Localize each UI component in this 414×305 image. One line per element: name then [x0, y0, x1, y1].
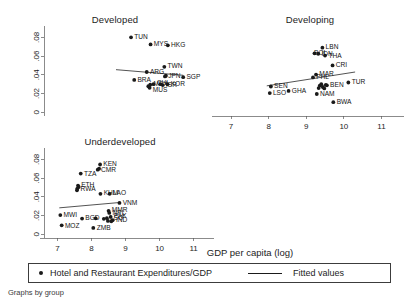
legend-line-icon	[248, 273, 282, 274]
svg-text:.06: .06	[32, 50, 41, 62]
svg-text:JPN: JPN	[168, 72, 181, 79]
svg-text:BEN: BEN	[330, 81, 344, 88]
x-axis-title: GDP per capita (log)	[160, 247, 340, 258]
svg-text:KOR: KOR	[171, 80, 186, 87]
svg-text:SEN: SEN	[274, 82, 288, 89]
svg-text:THA: THA	[328, 52, 342, 59]
chart-legend: Hotel and Restaurant Expenditures/GDP Fi…	[28, 263, 391, 283]
svg-text:CMR: CMR	[101, 166, 116, 173]
graphs-by-group-note: Graphs by group	[8, 288, 64, 297]
svg-text:8: 8	[89, 244, 94, 253]
svg-text:LSO: LSO	[273, 89, 286, 96]
svg-text:MWI: MWI	[64, 211, 78, 218]
scatter-plot-developed: 0.02.04.06.08TUNMYSHKGTWNARGJPNSGPBRAMEX…	[22, 14, 208, 126]
svg-text:TZA: TZA	[84, 170, 97, 177]
panel-developed: Developed 0.02.04.06.08TUNMYSHKGTWNARGJP…	[22, 14, 208, 126]
svg-text:MUS: MUS	[153, 86, 168, 93]
panel-underdeveloped: Underdeveloped 0.02.04.06.087891011KENCM…	[22, 136, 218, 262]
svg-text:0: 0	[32, 231, 41, 236]
svg-text:RWA: RWA	[81, 185, 97, 192]
svg-text:BOL: BOL	[314, 49, 328, 56]
svg-text:10: 10	[339, 122, 348, 131]
svg-text:0: 0	[32, 109, 41, 114]
svg-text:MOZ: MOZ	[65, 222, 80, 229]
figure-root: Developed 0.02.04.06.08TUNMYSHKGTWNARGJP…	[0, 0, 414, 305]
svg-text:9: 9	[304, 122, 309, 131]
svg-text:.02: .02	[32, 87, 41, 99]
svg-text:CRI: CRI	[336, 61, 348, 68]
svg-text:NAM: NAM	[320, 90, 335, 97]
legend-marker-icon	[39, 271, 43, 275]
svg-text:LAO: LAO	[113, 189, 126, 196]
svg-text:.08: .08	[32, 31, 41, 43]
legend-entry-line: Fitted values	[248, 268, 344, 278]
svg-text:BRA: BRA	[137, 76, 151, 83]
svg-text:TUN: TUN	[134, 33, 148, 40]
scatter-plot-underdeveloped: 0.02.04.06.087891011KENCMRTZAETHRWAKHMLA…	[22, 136, 218, 262]
svg-text:.08: .08	[32, 153, 41, 165]
panel-developing: Developing 7891011LBNIDNTHABOLCRIMARPHLT…	[212, 14, 408, 140]
svg-text:7: 7	[55, 244, 60, 253]
scatter-plot-developing: 7891011LBNIDNTHABOLCRIMARPHLTURBENSENGHA…	[212, 14, 408, 140]
svg-text:.02: .02	[32, 209, 41, 221]
svg-text:PHL: PHL	[316, 73, 329, 80]
svg-text:TWN: TWN	[168, 62, 183, 69]
svg-text:BWA: BWA	[337, 98, 352, 105]
svg-text:ZMB: ZMB	[97, 224, 112, 231]
svg-text:8: 8	[266, 122, 271, 131]
svg-text:IND: IND	[116, 216, 128, 223]
svg-text:.06: .06	[32, 172, 41, 184]
svg-text:9: 9	[123, 244, 128, 253]
svg-text:BGD: BGD	[85, 214, 100, 221]
legend-line-label: Fitted values	[293, 268, 344, 278]
svg-text:ARG: ARG	[150, 68, 164, 75]
legend-entry-marker: Hotel and Restaurant Expenditures/GDP	[39, 268, 212, 278]
svg-text:GHA: GHA	[292, 87, 307, 94]
svg-text:SGP: SGP	[186, 73, 201, 80]
svg-text:.04: .04	[32, 191, 41, 203]
svg-text:VNM: VNM	[123, 199, 138, 206]
svg-text:11: 11	[377, 122, 386, 131]
svg-text:TUR: TUR	[352, 78, 366, 85]
legend-marker-label: Hotel and Restaurant Expenditures/GDP	[50, 268, 212, 278]
svg-text:.04: .04	[32, 69, 41, 81]
svg-text:HKG: HKG	[171, 41, 185, 48]
svg-text:7: 7	[229, 122, 234, 131]
